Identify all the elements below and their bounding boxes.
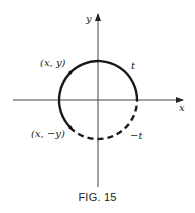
y-axis-label: y — [86, 14, 92, 24]
point-label-x-neg-y: (x, −y) — [31, 129, 65, 139]
arc-negative-dashed — [70, 100, 137, 139]
arc-label-t: t — [131, 61, 135, 71]
point-label-x-y: (x, y) — [40, 58, 65, 68]
point-x-y-dot — [68, 70, 72, 74]
unit-circle-figure: y x (x, y) (x, −y) t −t FIG. 15 — [0, 0, 195, 213]
figure-caption: FIG. 15 — [0, 191, 195, 203]
arc-label-neg-t: −t — [130, 131, 142, 141]
point-x-negy-dot — [68, 126, 72, 130]
unit-circle-diagram — [0, 0, 195, 213]
x-axis-label: x — [179, 103, 185, 113]
